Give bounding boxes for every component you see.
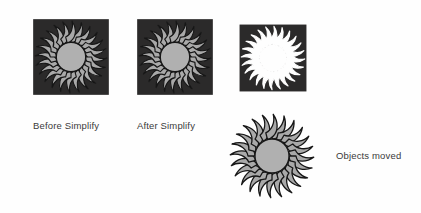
- sun-core: [56, 42, 85, 71]
- sun-core: [255, 139, 289, 173]
- graphic-sun-standalone: [222, 106, 322, 206]
- graphic-sun-on-dark-square-before: [28, 14, 114, 100]
- sun-core: [160, 42, 189, 71]
- caption-after-simplify: After Simplify: [137, 120, 195, 131]
- caption-objects-moved: Objects moved: [336, 150, 401, 161]
- graphic-sun-on-dark-square-after: [132, 14, 218, 100]
- caption-before-simplify: Before Simplify: [33, 120, 99, 131]
- dark-square-with-knockout: [240, 25, 307, 92]
- graphic-sun-knockout-square: [234, 20, 312, 96]
- illustration-canvas: Before Simplify After Simplify Objects m…: [0, 0, 421, 213]
